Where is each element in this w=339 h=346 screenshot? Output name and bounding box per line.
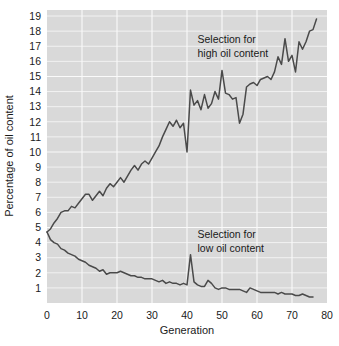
high-annotation-line2: high oil content (198, 47, 269, 59)
x-tick-label-40: 40 (181, 309, 193, 321)
y-tick-label-3: 3 (35, 251, 41, 263)
x-tick-label-20: 20 (111, 309, 123, 321)
y-tick-label-16: 16 (29, 55, 41, 67)
y-tick-label-12: 12 (29, 116, 41, 128)
x-tick-label-30: 30 (146, 309, 158, 321)
x-axis-tick-labels: 01020304050607080 (44, 309, 333, 321)
oil-content-selection-figure: 12345678910111213141516171819 0102030405… (0, 0, 339, 346)
x-tick-label-60: 60 (251, 309, 263, 321)
y-tick-label-14: 14 (29, 85, 41, 97)
y-axis-title: Percentage of oil content (3, 95, 15, 217)
high-annotation-line1: Selection for (198, 33, 257, 45)
y-tick-label-18: 18 (29, 25, 41, 37)
y-tick-label-7: 7 (35, 191, 41, 203)
y-tick-label-4: 4 (35, 236, 41, 248)
y-tick-label-8: 8 (35, 176, 41, 188)
x-tick-label-50: 50 (216, 309, 228, 321)
x-tick-label-10: 10 (76, 309, 88, 321)
chart-canvas: 12345678910111213141516171819 0102030405… (0, 0, 339, 346)
x-axis-title: Generation (160, 324, 214, 336)
y-tick-label-5: 5 (35, 221, 41, 233)
y-tick-label-13: 13 (29, 100, 41, 112)
y-tick-label-17: 17 (29, 40, 41, 52)
x-tick-label-70: 70 (286, 309, 298, 321)
y-tick-label-10: 10 (29, 146, 41, 158)
y-tick-label-11: 11 (30, 131, 41, 143)
y-tick-label-6: 6 (35, 206, 41, 218)
y-tick-label-9: 9 (35, 161, 41, 173)
low-annotation-line2: low oil content (198, 242, 265, 254)
y-tick-label-15: 15 (29, 70, 41, 82)
y-tick-label-1: 1 (35, 282, 41, 294)
x-tick-label-0: 0 (44, 309, 50, 321)
x-tick-label-80: 80 (321, 309, 333, 321)
y-tick-label-19: 19 (29, 10, 41, 22)
low-annotation-line1: Selection for (198, 228, 257, 240)
y-tick-label-2: 2 (35, 267, 41, 279)
